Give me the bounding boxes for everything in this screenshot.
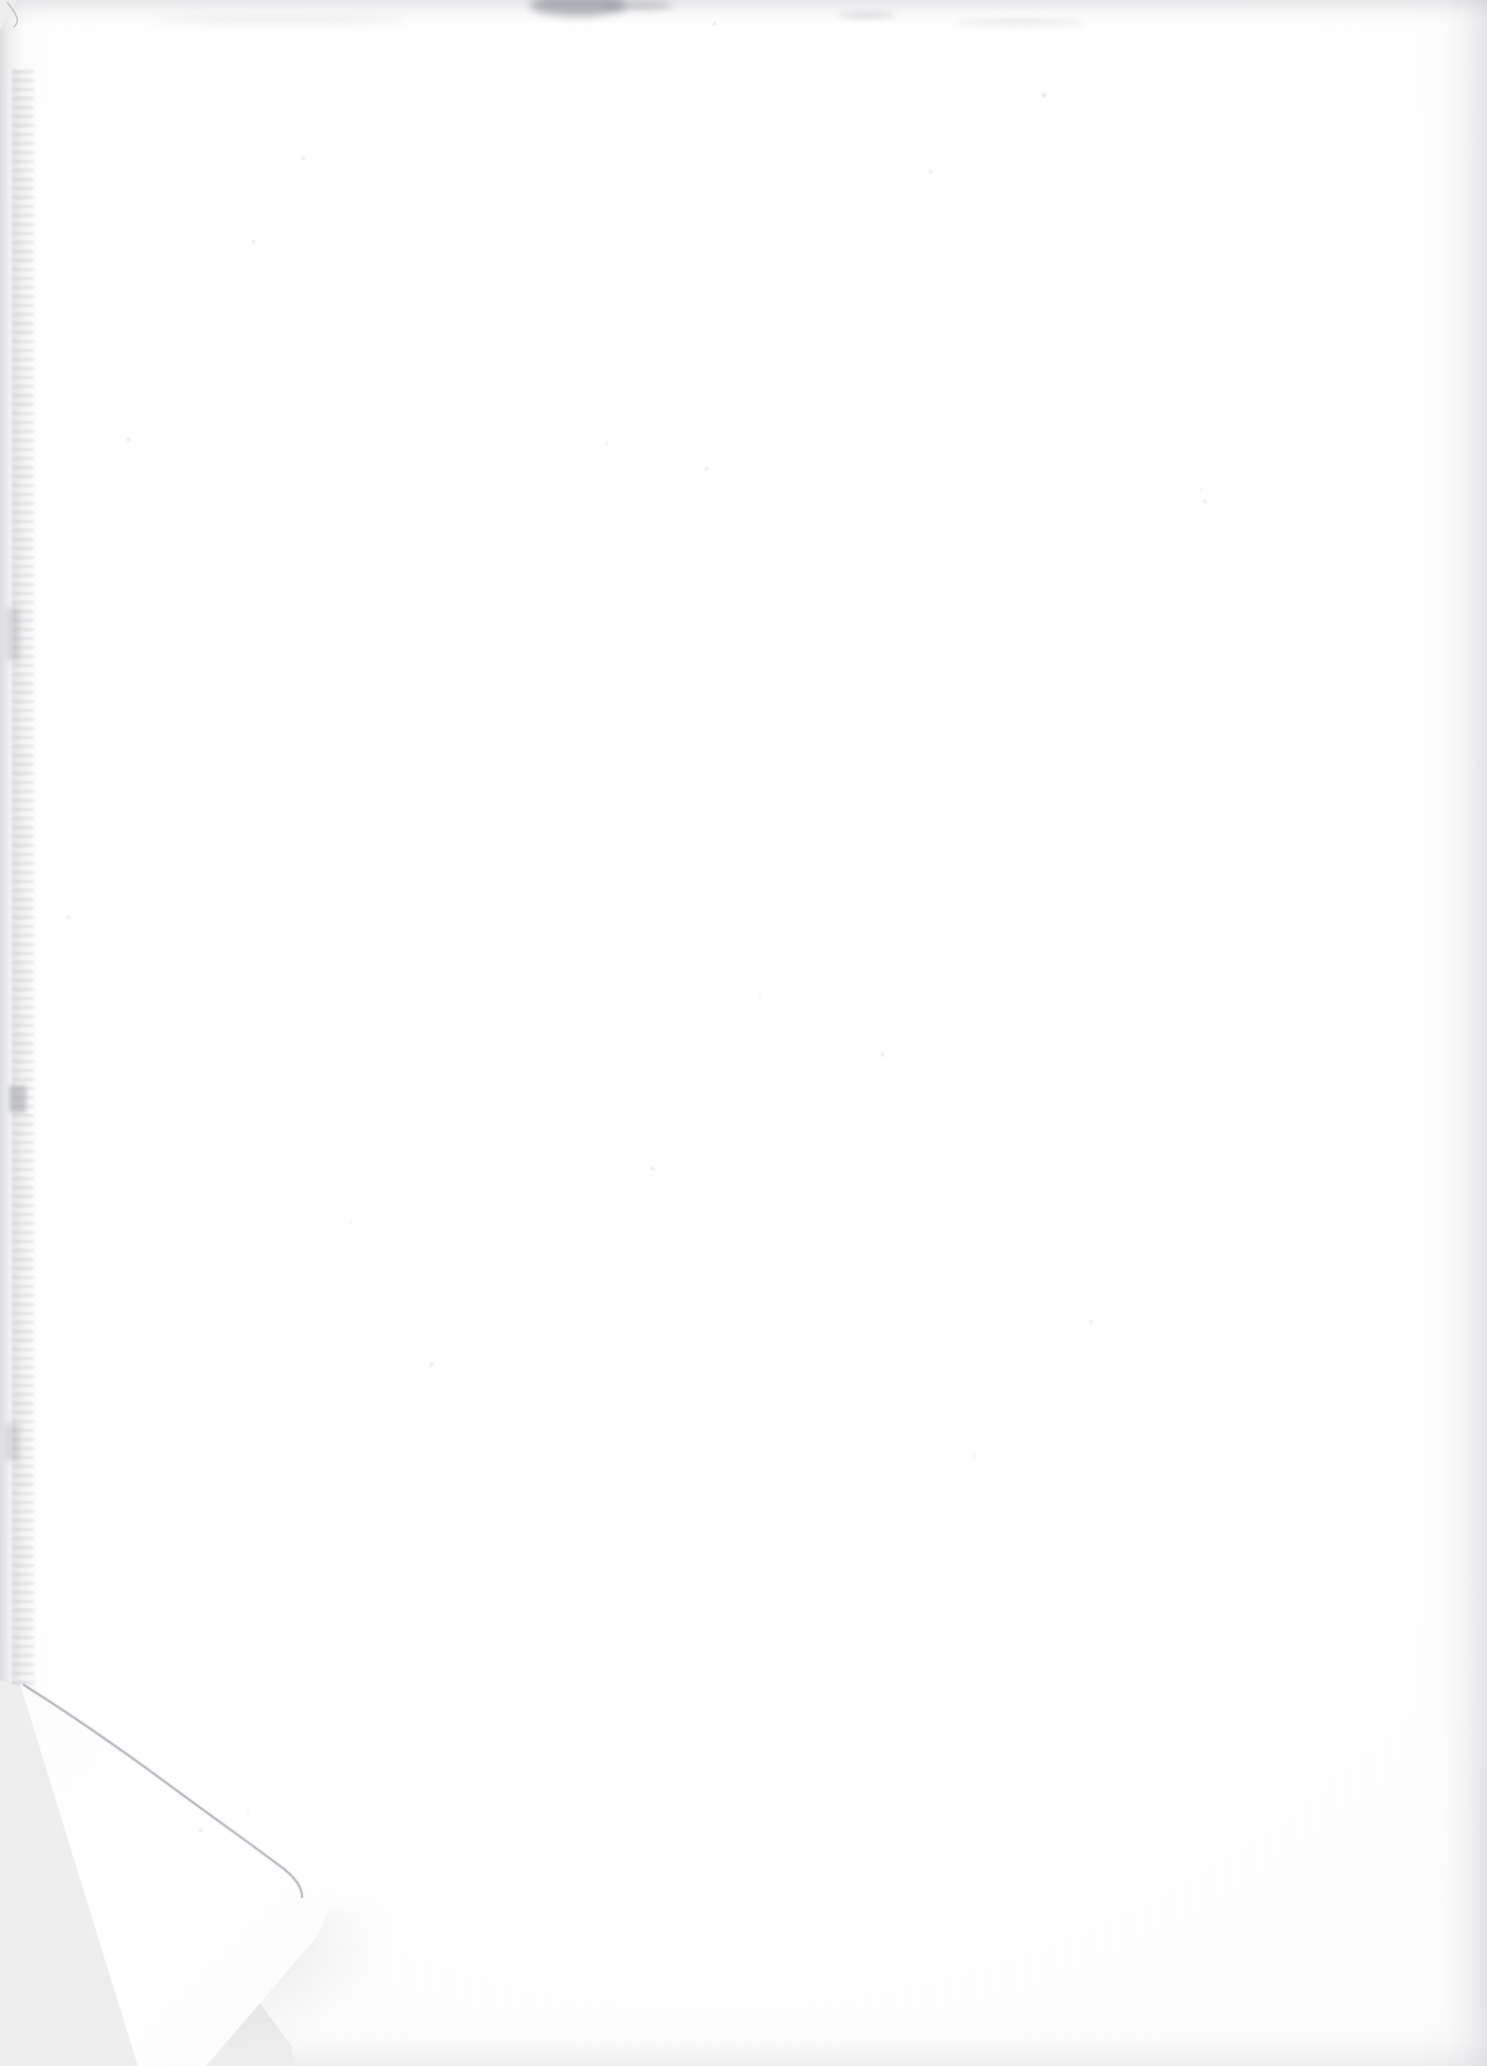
top-edge-right-streak	[838, 12, 896, 18]
scan-speck	[252, 240, 255, 243]
scan-speck	[881, 1053, 884, 1056]
paper-sheet	[0, 0, 1487, 2066]
right-edge-shadow	[1415, 0, 1487, 2066]
scan-speck	[705, 467, 708, 470]
scan-speck	[302, 157, 305, 160]
scan-speck	[606, 442, 608, 444]
scan-speck	[759, 994, 761, 996]
scan-speck	[1042, 93, 1046, 97]
left-edge-dark-mark-3	[5, 1424, 20, 1460]
scanned-page-canvas	[0, 0, 1487, 2066]
scan-speck	[67, 916, 70, 919]
scan-speck	[651, 1167, 654, 1170]
scan-speck	[247, 1810, 249, 1812]
scan-speck	[1200, 489, 1202, 491]
paper-surface-tone	[0, 0, 1487, 2066]
top-edge-tail-smudge	[600, 1, 674, 10]
top-edge-far-right-streak	[955, 20, 1085, 25]
scan-speck	[1203, 500, 1206, 503]
scan-speck	[974, 1455, 976, 1457]
scan-speck	[1090, 1320, 1093, 1323]
scan-speck	[118, 1749, 120, 1751]
scan-speck	[430, 1363, 433, 1366]
scan-speck	[127, 438, 130, 441]
scan-speck	[350, 1222, 352, 1224]
top-edge-left-streak	[150, 16, 410, 23]
scan-speck	[199, 1829, 202, 1832]
left-edge-dark-mark-2	[6, 608, 20, 660]
scan-speck	[713, 22, 716, 25]
left-edge-grain	[12, 70, 34, 1860]
scan-speck	[929, 170, 932, 173]
left-edge-dark-mark-1	[9, 1086, 26, 1112]
